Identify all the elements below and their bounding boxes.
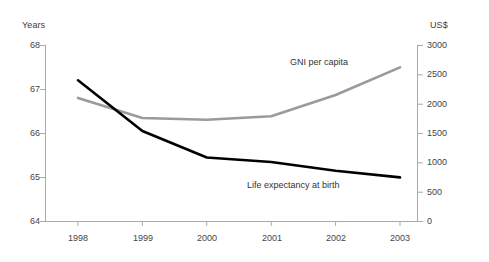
right-axis-ticks bbox=[418, 46, 424, 222]
chart-figure: Years US$ 68 67 66 65 64 3000 2500 2000 … bbox=[0, 0, 489, 262]
left-axis-ticks bbox=[40, 46, 46, 222]
axis-lines bbox=[46, 45, 418, 222]
x-axis-ticks bbox=[78, 222, 400, 227]
plot-area bbox=[0, 0, 489, 262]
series-line-life-expectancy bbox=[78, 80, 400, 177]
series-line-gni-per-capita bbox=[78, 67, 400, 119]
